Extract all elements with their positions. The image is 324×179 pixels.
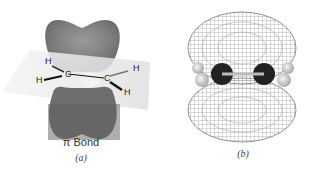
panel-a-pi-bond-shaded: H H C C H H π Bond (a) (0, 0, 162, 179)
hydrogen-atom (192, 62, 204, 74)
atom-h3: H (133, 64, 140, 73)
atom-c2: C (104, 74, 111, 83)
panel-b-pi-bond-wireframe: (b) (162, 0, 324, 179)
atom-h4: H (124, 88, 131, 97)
hydrogen-atom (277, 73, 291, 87)
hydrogen-atom (195, 73, 209, 87)
atom-h2: H (36, 76, 43, 85)
panel-b-label: (b) (162, 148, 324, 159)
panel-a-label: (a) (0, 152, 162, 163)
pi-bond-label: π Bond (0, 136, 162, 148)
atom-h1: H (45, 57, 52, 66)
atom-c1: C (65, 70, 72, 79)
lower-wire-lobe (188, 78, 296, 142)
hydrogen-atom (282, 62, 294, 74)
